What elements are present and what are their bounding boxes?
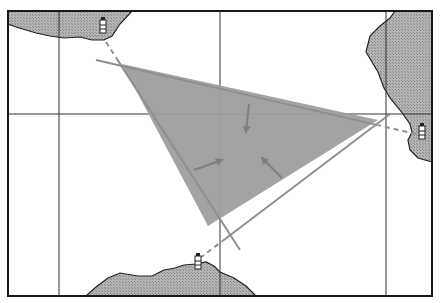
lighthouse-south-icon: [195, 253, 201, 269]
cocked-hat-layer: [122, 64, 378, 226]
south-coast: [86, 262, 256, 296]
north-west-coast: [8, 11, 132, 40]
bearing-line-south-dashed: [200, 241, 223, 258]
bearing-line-north-west-dashed: [106, 42, 117, 59]
chart-diagram: [0, 0, 442, 303]
cocked-hat-triangle: [122, 64, 378, 226]
